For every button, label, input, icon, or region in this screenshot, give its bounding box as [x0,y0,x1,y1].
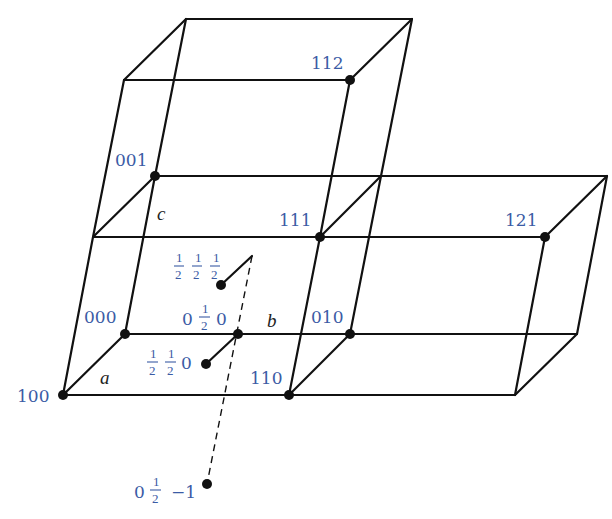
dot-100 [58,390,68,400]
num: 1 [202,301,209,316]
label-001: 001 [115,150,147,170]
num-2: 1 [195,250,202,265]
label-half-half-half: 1 2 1 2 1 2 [174,250,220,282]
num-3: 1 [213,250,220,265]
fraction-labels: 1 2 1 2 1 2 0 1 2 0 1 2 1 2 0 [134,250,227,506]
num-1: 1 [176,250,183,265]
whole-3: 0 [216,309,227,329]
label-0-half-minus1: 0 1 2 −1 [134,474,196,506]
dot-half-half-half [216,280,226,290]
upper-cell [93,19,412,237]
whole-3: 0 [181,353,192,373]
label-000: 000 [84,307,116,327]
den-1: 2 [175,267,182,282]
line-half-half-0 [206,334,238,364]
den: 2 [152,491,159,506]
whole-1: 0 [134,482,145,502]
label-121: 121 [505,210,537,230]
dot-0-half-minus1 [202,479,212,489]
edge-010-011 [350,176,381,334]
edge-011-012 [381,19,412,176]
lattice-diagram: 000 100 010 001 110 111 112 121 a b c 1 … [0,0,612,519]
dot-0-half-0 [233,329,243,339]
den-3: 2 [211,267,218,282]
dashed-line-to-0-half-minus1 [207,256,252,484]
dot-010 [345,329,355,339]
den-2: 2 [193,267,200,282]
dot-112 [345,75,355,85]
label-112: 112 [311,53,343,73]
whole-1: 0 [182,309,193,329]
direction-lines [206,256,252,484]
label-010: 010 [311,307,343,327]
axis-label-b: b [267,310,277,331]
label-111: 111 [279,210,311,230]
num: 1 [153,474,160,489]
den-2: 2 [167,363,174,378]
num-2: 1 [168,346,175,361]
label-100: 100 [17,386,49,406]
dot-000 [120,329,130,339]
dot-001 [150,171,160,181]
label-0-half-0: 0 1 2 0 [182,301,227,333]
edge-111-112 [320,80,350,237]
lattice-dots [58,75,550,489]
dot-110 [284,390,294,400]
axis-label-c: c [157,203,166,224]
den: 2 [201,318,208,333]
dot-121 [540,232,550,242]
dot-111 [315,232,325,242]
axis-label-a: a [100,367,110,388]
dot-half-half-0 [201,359,211,369]
whole-3: −1 [171,482,196,502]
num-1: 1 [150,346,157,361]
label-half-half-0: 1 2 1 2 0 [147,346,192,378]
right-cell [289,176,607,395]
edge-001-002 [155,19,186,176]
label-110: 110 [250,368,282,388]
den-1: 2 [149,363,156,378]
